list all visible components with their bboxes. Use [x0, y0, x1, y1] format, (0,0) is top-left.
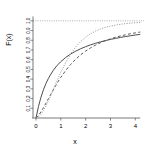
x-axis-tick-label: 4	[134, 123, 138, 129]
y-axis-tick-label: 0.8	[26, 37, 31, 44]
y-axis-tick-label: 0.7	[26, 46, 31, 53]
y-axis-tick-labels: 0.10.20.30.40.50.60.70.80.91.0	[26, 17, 31, 111]
x-axis-tick-label: 3	[109, 123, 113, 129]
curve-dashed	[36, 32, 140, 118]
y-axis-tick-label: 1.0	[26, 17, 31, 24]
y-axis-tick-label: 0.3	[26, 85, 31, 92]
plot-area: 0.10.20.30.40.50.60.70.80.91.0 01234	[0, 0, 150, 147]
y-axis-tick-label: 0.1	[26, 105, 31, 112]
x-axis-tick-label: 0	[34, 123, 38, 129]
y-axis: 0.10.20.30.40.50.60.70.80.91.0	[26, 16, 33, 118]
x-axis-tick-label: 1	[59, 123, 63, 129]
y-axis-tick-label: 0.5	[26, 66, 31, 73]
chart-figure: 0.10.20.30.40.50.60.70.80.91.0 01234 x F…	[0, 0, 150, 147]
x-axis-tick-labels: 01234	[34, 123, 137, 129]
curve-solid	[36, 34, 140, 118]
x-axis-title: x	[0, 138, 150, 145]
y-axis-title: F(x)	[5, 20, 12, 60]
x-axis-tick-label: 2	[84, 123, 88, 129]
y-axis-tick-label: 0.4	[26, 75, 31, 82]
y-axis-tick-label: 0.6	[26, 56, 31, 63]
y-axis-tick-label: 0.2	[26, 95, 31, 102]
x-axis: 01234	[32, 118, 140, 129]
y-axis-tick-label: 0.9	[26, 27, 31, 34]
series-group	[36, 22, 140, 118]
